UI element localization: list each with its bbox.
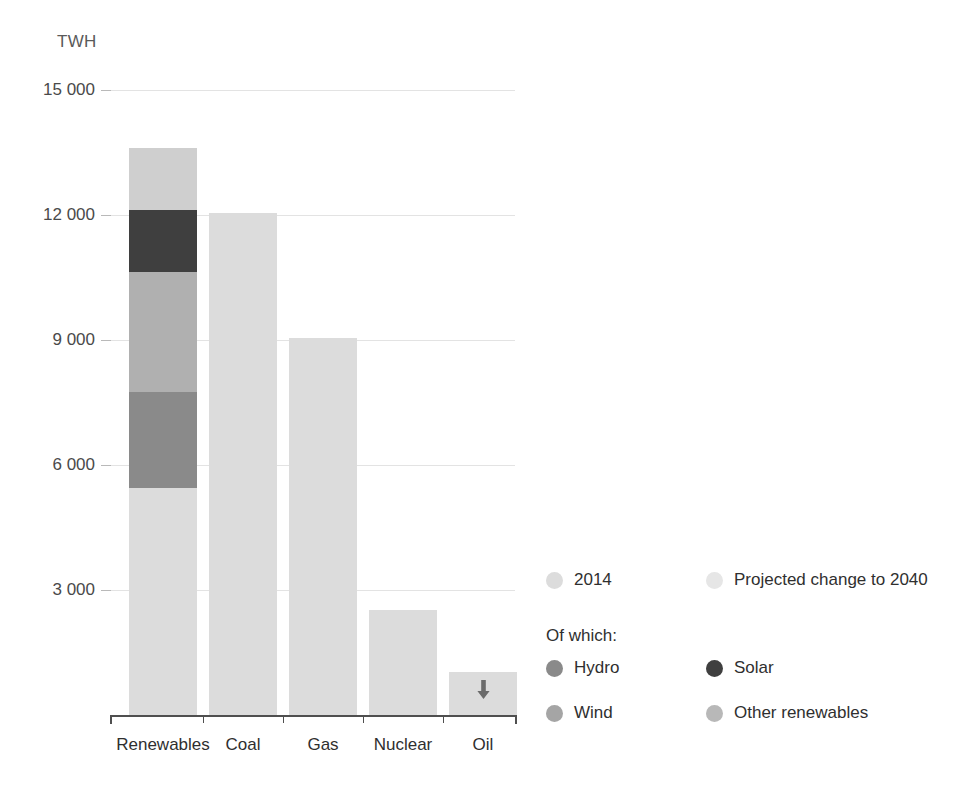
- y-axis-tick-label: 9 000: [52, 330, 95, 350]
- x-axis-label-renewables: Renewables: [116, 735, 210, 755]
- legend-item-2014[interactable]: 2014: [546, 570, 612, 590]
- y-axis-tick: [101, 90, 111, 91]
- bar-segment-total: [289, 338, 357, 715]
- chart-legend: 2014 Projected change to 2040 Of which: …: [546, 570, 966, 601]
- legend-swatch-wind: [546, 705, 563, 722]
- legend-sublegend: Hydro Solar Wind Other renewables: [546, 658, 966, 734]
- bar-segment-base-2014: [129, 488, 197, 715]
- x-axis-separator: [363, 715, 364, 723]
- x-axis-separator: [283, 715, 284, 723]
- legend-row-hydro-solar: Hydro Solar: [546, 658, 966, 689]
- legend-swatch-hydro: [546, 660, 563, 677]
- gridline: [110, 90, 515, 91]
- y-axis-tick: [101, 340, 111, 341]
- legend-row-wind-other: Wind Other renewables: [546, 703, 966, 734]
- x-axis-label-nuclear: Nuclear: [374, 735, 433, 755]
- legend-subtitle: Of which:: [546, 626, 617, 646]
- legend-item-other-renewables[interactable]: Other renewables: [706, 703, 868, 723]
- legend-item-projected-change[interactable]: Projected change to 2040: [706, 570, 928, 590]
- x-axis-label-coal: Coal: [226, 735, 261, 755]
- x-axis-separator: [443, 715, 444, 723]
- legend-label-wind: Wind: [574, 703, 613, 723]
- x-axis-line: [110, 715, 515, 717]
- legend-swatch-solar: [706, 660, 723, 677]
- legend-swatch-other-renewables: [706, 705, 723, 722]
- legend-item-wind[interactable]: Wind: [546, 703, 613, 723]
- bar-segment-hydro: [129, 392, 197, 488]
- bar-nuclear[interactable]: [369, 610, 437, 715]
- bar-segment-solar: [129, 210, 197, 272]
- y-axis-tick: [101, 465, 111, 466]
- y-axis-tick-label: 6 000: [52, 455, 95, 475]
- bar-gas[interactable]: [289, 338, 357, 715]
- bar-coal[interactable]: [209, 213, 277, 715]
- bar-segment-wind: [129, 148, 197, 210]
- x-axis-separator: [203, 715, 204, 723]
- legend-label-projected-change: Projected change to 2040: [734, 570, 928, 590]
- legend-item-hydro[interactable]: Hydro: [546, 658, 619, 678]
- x-axis-end-cap: [515, 715, 517, 724]
- legend-label-other-renewables: Other renewables: [734, 703, 868, 723]
- bar-segment-total: [209, 213, 277, 715]
- legend-swatch-projected-change: [706, 572, 723, 589]
- legend-label-solar: Solar: [734, 658, 774, 678]
- bar-renewables[interactable]: [129, 148, 197, 715]
- legend-label-hydro: Hydro: [574, 658, 619, 678]
- down-arrow-icon: [477, 680, 490, 700]
- y-axis-unit-label: TWH: [57, 32, 97, 52]
- chart-container: TWH 15 00012 0009 0006 0003 000 Renewabl…: [0, 0, 977, 803]
- y-axis-tick-label: 15 000: [43, 80, 95, 100]
- legend-item-solar[interactable]: Solar: [706, 658, 774, 678]
- y-axis-tick-label: 12 000: [43, 205, 95, 225]
- legend-row-main: 2014 Projected change to 2040: [546, 570, 966, 601]
- bar-segment-total: [369, 610, 437, 715]
- y-axis-tick: [101, 590, 111, 591]
- x-axis-label-oil: Oil: [473, 735, 494, 755]
- legend-label-2014: 2014: [574, 570, 612, 590]
- y-axis-tick: [101, 215, 111, 216]
- y-axis-tick-labels: 15 00012 0009 0006 0003 000: [0, 90, 95, 715]
- bar-segment-other-renewables: [129, 272, 197, 392]
- x-axis-label-gas: Gas: [307, 735, 338, 755]
- x-axis-end-cap: [110, 715, 112, 724]
- y-axis-tick-label: 3 000: [52, 580, 95, 600]
- legend-swatch-2014: [546, 572, 563, 589]
